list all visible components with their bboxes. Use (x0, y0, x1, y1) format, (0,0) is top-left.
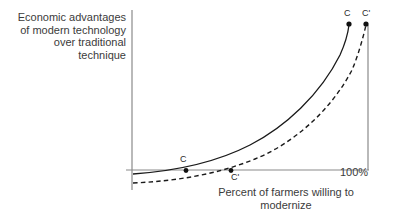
solid-curve-path (133, 25, 349, 174)
annotation-label-c-lower: C (180, 154, 187, 164)
annotation-label-cprime-lower: C' (231, 172, 239, 182)
x-axis-tick-100-percent: 100% (340, 166, 368, 179)
marker-cprime-top (363, 21, 368, 26)
x-axis-label: Percent of farmers willing to modernize (206, 186, 366, 211)
y-axis-label: Economic advantages of modern technology… (6, 11, 126, 61)
dashed-curve-path (133, 25, 366, 183)
annotation-label-cprime-top: C' (362, 8, 370, 18)
marker-c-low (184, 168, 189, 173)
chart-figure: Economic advantages of modern technology… (0, 0, 394, 218)
annotation-label-c-top: C (344, 8, 351, 18)
marker-c-top (346, 21, 351, 26)
